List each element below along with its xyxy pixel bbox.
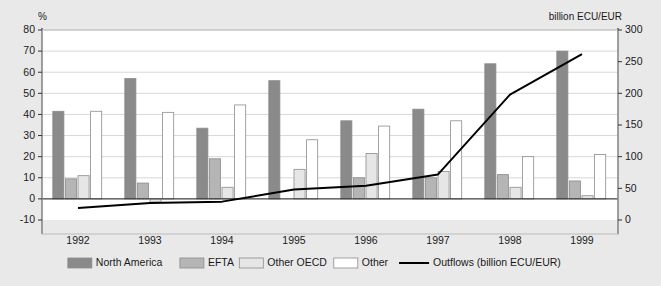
bar-1997-efta <box>425 178 436 199</box>
legend-color-swatch <box>180 258 204 268</box>
bar-1997-north-america <box>413 109 424 199</box>
legend-label: North America <box>96 256 163 268</box>
legend-label: Outflows (billion ECU/EUR) <box>433 256 561 268</box>
y-tick-label-right: 200 <box>625 87 643 99</box>
x-tick-label-1997: 1997 <box>426 234 450 246</box>
bar-1998-other <box>523 157 534 199</box>
y-axis-right-title: billion ECU/EUR <box>549 11 622 22</box>
bar-1994-efta <box>209 159 220 199</box>
bar-1995-other-oecd <box>294 169 305 199</box>
x-tick-label-1992: 1992 <box>66 234 90 246</box>
legend-item-north-america[interactable]: North America <box>68 256 163 268</box>
y-tick-label-right: 250 <box>625 55 643 67</box>
y-axis-left-title: % <box>38 11 47 22</box>
y-tick-label-right: 150 <box>625 118 643 130</box>
y-tick-label-left: 50 <box>23 87 35 99</box>
bar-1995-other <box>307 140 318 199</box>
x-tick-label-1995: 1995 <box>282 234 306 246</box>
y-tick-label-left: -10 <box>20 213 35 225</box>
y-tick-label-right: 0 <box>625 213 631 225</box>
bar-1992-efta <box>65 179 76 199</box>
x-tick-label-1994: 1994 <box>210 234 234 246</box>
bar-1998-other-oecd <box>510 187 521 199</box>
bar-1993-efta <box>137 183 148 199</box>
bar-1994-north-america <box>197 128 208 199</box>
y-tick-label-left: 30 <box>23 129 35 141</box>
bar-1992-north-america <box>53 111 64 199</box>
bar-1992-other <box>91 111 102 199</box>
bar-1996-efta <box>353 178 364 199</box>
bar-1996-other <box>379 126 390 199</box>
legend-label: EFTA <box>208 256 234 268</box>
y-tick-label-right: 300 <box>625 23 643 35</box>
y-tick-label-left: 0 <box>29 192 35 204</box>
legend-color-swatch <box>334 258 358 268</box>
bar-1995-north-america <box>269 81 280 199</box>
y-tick-label-left: 60 <box>23 66 35 78</box>
bar-1996-other-oecd <box>366 154 377 199</box>
grouped-bar-chart: -1001020304050607080 050100150200250300 … <box>0 0 661 286</box>
chart-legend: North AmericaEFTAOther OECDOtherOutflows… <box>68 256 561 268</box>
chart-container: -1001020304050607080 050100150200250300 … <box>0 0 661 286</box>
y-tick-label-right: 50 <box>625 182 637 194</box>
y-tick-label-left: 40 <box>23 108 35 120</box>
bar-1994-other <box>235 105 246 199</box>
bar-1999-other <box>595 155 606 199</box>
legend-item-other-oecd[interactable]: Other OECD <box>239 256 327 268</box>
y-tick-label-right: 100 <box>625 150 643 162</box>
bar-1999-north-america <box>557 51 568 199</box>
legend-color-swatch <box>239 258 263 268</box>
legend-color-swatch <box>68 258 92 268</box>
bar-1992-other-oecd <box>78 176 89 199</box>
y-tick-label-left: 10 <box>23 171 35 183</box>
bar-1998-efta <box>497 175 508 199</box>
legend-label: Other OECD <box>267 256 327 268</box>
bar-1993-north-america <box>125 79 136 199</box>
legend-item-other[interactable]: Other <box>334 256 389 268</box>
x-tick-label-1998: 1998 <box>498 234 522 246</box>
x-tick-label-1999: 1999 <box>570 234 594 246</box>
bar-1994-other-oecd <box>222 187 233 199</box>
bar-1998-north-america <box>485 64 496 199</box>
x-tick-label-1996: 1996 <box>354 234 378 246</box>
x-tick-label-1993: 1993 <box>138 234 162 246</box>
bar-1997-other-oecd <box>438 171 449 198</box>
y-tick-label-left: 70 <box>23 44 35 56</box>
legend-item-efta[interactable]: EFTA <box>180 256 234 268</box>
y-tick-label-left: 80 <box>23 23 35 35</box>
bar-1999-efta <box>569 181 580 199</box>
legend-label: Other <box>362 256 389 268</box>
bar-1993-other <box>163 112 174 199</box>
y-tick-label-left: 20 <box>23 150 35 162</box>
